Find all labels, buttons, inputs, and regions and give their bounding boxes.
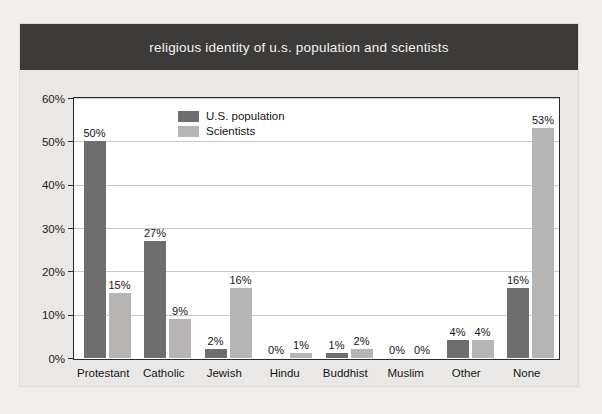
chart-card: religious identity of u.s. population an… bbox=[20, 24, 578, 386]
x-axis-tick: None bbox=[497, 360, 558, 379]
y-axis-tick-mark bbox=[68, 358, 73, 359]
x-axis-tick-label: Buddhist bbox=[315, 367, 376, 379]
bar: 4% bbox=[472, 340, 494, 357]
chart-title-banner: religious identity of u.s. population an… bbox=[20, 24, 578, 70]
bar-group: 1%2% bbox=[318, 100, 379, 358]
bar-group: 16%53% bbox=[499, 100, 560, 358]
bar: 50% bbox=[84, 141, 106, 358]
x-axis-tick: Catholic bbox=[134, 360, 195, 379]
bar-value-label: 0% bbox=[414, 344, 430, 356]
chart-title: religious identity of u.s. population an… bbox=[149, 40, 448, 55]
x-axis-tick-label: Protestant bbox=[73, 367, 134, 379]
bar-value-label: 0% bbox=[389, 344, 405, 356]
bar-value-label: 16% bbox=[507, 274, 529, 286]
legend-swatch bbox=[178, 126, 199, 137]
y-axis-tick-label: 20% bbox=[27, 266, 65, 278]
bar-group: 2%16% bbox=[197, 100, 258, 358]
bar: 53% bbox=[532, 128, 554, 358]
x-axis-tick: Jewish bbox=[194, 360, 255, 379]
bar-group: 0%0% bbox=[378, 100, 439, 358]
y-axis-tick-mark bbox=[68, 185, 73, 186]
bar-value-label: 16% bbox=[229, 274, 251, 286]
bar-value-label: 27% bbox=[144, 227, 166, 239]
bar-group: 0%1% bbox=[257, 100, 318, 358]
legend-item: U.S. population bbox=[178, 110, 285, 122]
bar: 1% bbox=[326, 353, 348, 357]
bar: 4% bbox=[447, 340, 469, 357]
x-axis-tick-label: Hindu bbox=[255, 367, 316, 379]
bar-value-label: 50% bbox=[83, 127, 105, 139]
legend-label: U.S. population bbox=[206, 110, 285, 122]
bar-group: 50%15% bbox=[76, 100, 137, 358]
bar-value-label: 1% bbox=[293, 339, 309, 351]
x-axis-tick: Other bbox=[436, 360, 497, 379]
y-axis-tick-label: 30% bbox=[27, 223, 65, 235]
plot-area: U.S. populationScientists 50%15%27%9%2%1… bbox=[73, 97, 560, 360]
plot-area-wrapper: U.S. populationScientists 50%15%27%9%2%1… bbox=[73, 97, 560, 360]
y-axis-tick-label: 0% bbox=[27, 353, 65, 365]
chart-legend: U.S. populationScientists bbox=[178, 110, 285, 137]
y-axis-tick-mark bbox=[68, 315, 73, 316]
y-axis-tick-label: 10% bbox=[27, 309, 65, 321]
bar-value-label: 15% bbox=[108, 279, 130, 291]
bar: 2% bbox=[351, 349, 373, 358]
bar: 1% bbox=[290, 353, 312, 357]
bar-groups: 50%15%27%9%2%16%0%1%1%2%0%0%4%4%16%53% bbox=[76, 100, 558, 358]
x-axis-tick-label: Muslim bbox=[376, 367, 437, 379]
bar: 16% bbox=[230, 288, 252, 357]
bar-group: 4%4% bbox=[439, 100, 500, 358]
x-axis-tick-label: None bbox=[497, 367, 558, 379]
x-axis-tick-label: Jewish bbox=[194, 367, 255, 379]
y-axis-tick-label: 50% bbox=[27, 136, 65, 148]
legend-item: Scientists bbox=[178, 125, 285, 137]
bar-value-label: 53% bbox=[532, 114, 554, 126]
bar-value-label: 2% bbox=[208, 335, 224, 347]
x-axis-tick-label: Other bbox=[436, 367, 497, 379]
y-axis-tick-mark bbox=[68, 141, 73, 142]
bar: 16% bbox=[507, 288, 529, 357]
y-axis-tick-label: 60% bbox=[27, 93, 65, 105]
bar-value-label: 1% bbox=[329, 339, 345, 351]
chart-figure: religious identity of u.s. population an… bbox=[0, 0, 602, 414]
x-axis-tick: Muslim bbox=[376, 360, 437, 379]
y-axis-tick-mark bbox=[68, 98, 73, 99]
bar-value-label: 9% bbox=[172, 305, 188, 317]
bar-group: 27%9% bbox=[136, 100, 197, 358]
x-axis-tick-label: Catholic bbox=[134, 367, 195, 379]
bar-value-label: 4% bbox=[450, 326, 466, 338]
bar: 15% bbox=[109, 293, 131, 358]
y-axis-tick-mark bbox=[68, 271, 73, 272]
bar-value-label: 4% bbox=[475, 326, 491, 338]
legend-swatch bbox=[178, 111, 199, 122]
bar: 27% bbox=[144, 241, 166, 358]
x-axis-tick: Protestant bbox=[73, 360, 134, 379]
legend-label: Scientists bbox=[206, 125, 255, 137]
y-axis-tick-mark bbox=[68, 228, 73, 229]
y-axis-tick-label: 40% bbox=[27, 179, 65, 191]
x-axis-tick: Hindu bbox=[255, 360, 316, 379]
bar-value-label: 2% bbox=[354, 335, 370, 347]
bar: 9% bbox=[169, 319, 191, 358]
bar-value-label: 0% bbox=[268, 344, 284, 356]
bar: 2% bbox=[205, 349, 227, 358]
x-axis-tick: Buddhist bbox=[315, 360, 376, 379]
